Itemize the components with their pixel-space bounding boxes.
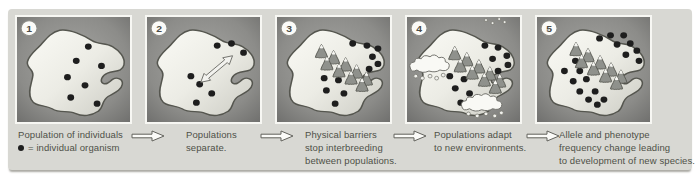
individual-dot [335,77,342,83]
individual-dot [187,73,194,79]
individual-dot [369,54,376,60]
step-panel-2: 2 [145,15,262,124]
individual-dot [601,96,608,102]
individual-dot [633,47,640,53]
caption-line: separate. [186,141,237,154]
individual-dot [576,88,583,94]
caption-line: between populations. [305,154,397,167]
individual-dot [341,90,348,96]
step-scene-5: 5 [537,17,650,122]
caption-step-3: Physical barriers stop interbreeding bet… [305,128,397,167]
step-scene-3: 3 [277,17,390,122]
individual-dot-icon [18,145,24,151]
individual-dot [85,43,92,49]
caption-line: to development of new species. [559,154,695,167]
step-number: 5 [546,23,552,34]
legend-row: = individual organism [18,141,123,154]
individual-dot [583,76,590,82]
individual-dot [67,94,74,100]
caption-step-4: Populations adapt to new environments. [434,128,526,154]
individual-dot [495,68,502,74]
caption-line: Populations adapt [434,128,526,141]
individual-dot [570,78,577,84]
individual-dot [82,82,89,88]
step-scene-1: 1 [17,17,130,122]
speciation-diagram-board: 1 2 3 [8,9,692,170]
step-scene-2: 2 [147,17,260,122]
step-number: 2 [156,23,162,34]
individual-dot [214,42,221,48]
individual-dot [446,73,453,79]
step-number: 3 [286,23,292,34]
caption-step-2: Populations separate. [186,128,237,154]
individual-dot [594,102,601,108]
individual-dot [323,87,330,93]
individual-dot [94,100,101,106]
flow-arrow-icon [393,130,427,142]
legend-text: = individual organism [28,141,120,154]
individual-dot [64,74,71,80]
individual-dot [622,52,629,58]
caption-step-5: Allele and phenotype frequency change le… [559,128,695,167]
individual-dot [489,56,496,62]
individual-dot [240,50,247,56]
individual-dot [614,41,621,47]
individual-dot [73,58,80,64]
caption-line: to new environments. [434,141,526,154]
flow-arrow-icon [131,130,165,142]
individual-dot [466,90,473,96]
flow-arrow-icon [260,130,294,142]
individual-dot [193,99,200,105]
individual-dot [452,85,459,91]
individual-dot [576,68,583,74]
individual-dot [620,32,627,38]
step-scene-4: 4 [407,17,520,122]
individual-dot [607,32,614,38]
individual-dot [366,66,373,72]
individual-dot [364,42,371,48]
individual-dot [592,88,599,94]
individual-dot [375,45,382,51]
step-panel-3: 3 [275,15,392,124]
individual-dot [332,100,339,106]
individual-dot [481,42,488,48]
caption-line: Physical barriers [305,128,397,141]
individual-dot [585,96,592,102]
individual-dot [321,75,328,81]
individual-dot [596,35,603,41]
individual-dot [349,40,356,46]
flow-arrow-icon [526,130,560,142]
individual-dot [561,68,568,74]
individual-dot [627,40,634,46]
step-number: 4 [416,23,422,34]
caption-line: stop interbreeding [305,141,397,154]
individual-dot [503,53,510,59]
individual-dot [505,62,512,68]
caption-step-1: Population of individuals = individual o… [18,128,123,154]
individual-dot [495,44,502,50]
step-panel-1: 1 [15,15,132,124]
caption-line: Populations [186,128,237,141]
step-panel-5: 5 [535,15,652,124]
individual-dot [98,63,105,69]
caption-line: Population of individuals [18,128,123,141]
individual-dot [228,40,235,46]
caption-line: Allele and phenotype [559,128,695,141]
individual-dot [636,58,643,64]
caption-line: frequency change leading [559,141,695,154]
individual-dot [208,90,215,96]
step-panel-4: 4 [405,15,522,124]
step-number: 1 [26,23,32,34]
individual-dot [375,61,382,67]
